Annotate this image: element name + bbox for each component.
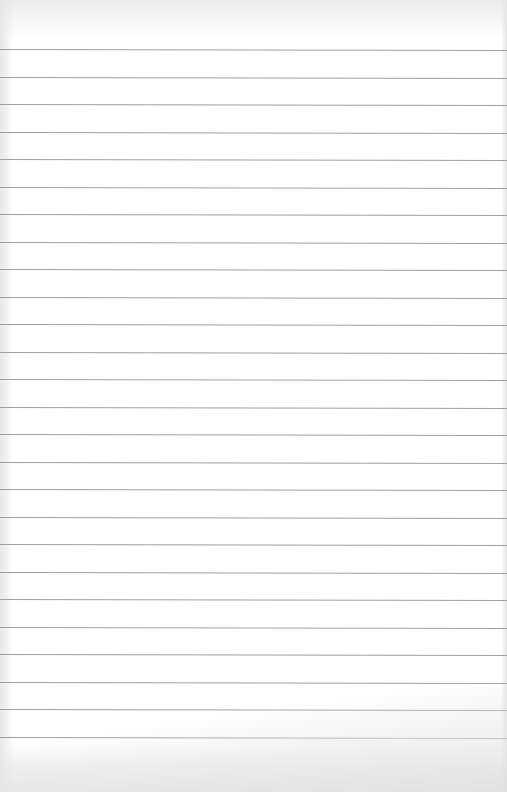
ruled-line bbox=[0, 627, 507, 629]
ruled-line bbox=[0, 269, 507, 271]
ruled-line bbox=[0, 324, 507, 326]
ruled-line bbox=[0, 599, 507, 601]
ruled-line bbox=[0, 434, 507, 436]
ruled-line bbox=[0, 517, 507, 519]
ruled-line bbox=[0, 572, 507, 574]
paper-left-shadow bbox=[0, 0, 14, 792]
ruled-line bbox=[0, 737, 507, 739]
ruled-line bbox=[0, 682, 507, 684]
ruled-line bbox=[0, 297, 507, 299]
ruled-line bbox=[0, 489, 507, 491]
ruled-line bbox=[0, 407, 507, 409]
ruled-line bbox=[0, 77, 507, 79]
ruled-line bbox=[0, 544, 507, 546]
ruled-line bbox=[0, 49, 507, 51]
ruled-line bbox=[0, 132, 507, 134]
ruled-line bbox=[0, 709, 507, 711]
ruled-line bbox=[0, 352, 507, 354]
lined-paper-sheet bbox=[0, 0, 507, 792]
ruled-line bbox=[0, 462, 507, 464]
ruled-line bbox=[0, 104, 507, 106]
ruled-line bbox=[0, 379, 507, 381]
ruled-line bbox=[0, 159, 507, 161]
ruled-line bbox=[0, 214, 507, 216]
ruled-line bbox=[0, 242, 507, 244]
ruled-line bbox=[0, 187, 507, 189]
ruled-line bbox=[0, 654, 507, 656]
paper-right-shadow bbox=[501, 0, 507, 792]
paper-bottom-shading bbox=[0, 0, 507, 792]
